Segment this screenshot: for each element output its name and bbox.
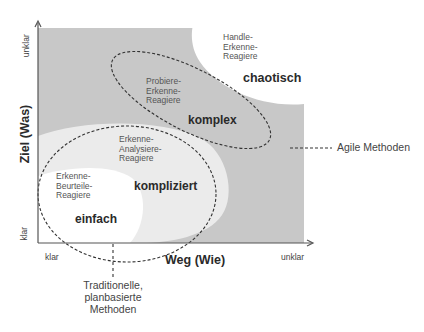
- y-axis-title: Ziel (Was): [18, 99, 32, 169]
- complicated-approach-label: Erkenne- Analysiere- Reagiere: [119, 135, 162, 164]
- y-axis-low-label: klar: [20, 222, 30, 246]
- x-axis-title: Weg (Wie): [165, 253, 225, 267]
- x-axis-high-label: unklar: [281, 253, 304, 263]
- chaotic-region-label: chaotisch: [243, 71, 301, 85]
- chaotic-approach-label: Handle- Erkenne- Reagiere: [223, 33, 258, 62]
- traditional-methods-label: Traditionelle, planbasierte Methoden: [78, 280, 148, 315]
- simple-region-label: einfach: [75, 213, 117, 226]
- complex-region-label: komplex: [188, 114, 237, 127]
- stacey-matrix-diagram: unklar Ziel (Was) klar klar Weg (Wie) un…: [0, 0, 424, 332]
- y-axis-high-label: unklar: [22, 31, 32, 61]
- simple-approach-label: Erkenne- Beurteile- Reagiere: [56, 172, 92, 201]
- x-axis-low-label: klar: [45, 253, 59, 263]
- complex-approach-label: Probiere- Erkenne- Reagiere: [146, 77, 181, 106]
- complicated-region-label: kompliziert: [134, 180, 197, 193]
- agile-methods-label: Agile Methoden: [337, 142, 410, 154]
- diagram-graphics: [0, 0, 424, 332]
